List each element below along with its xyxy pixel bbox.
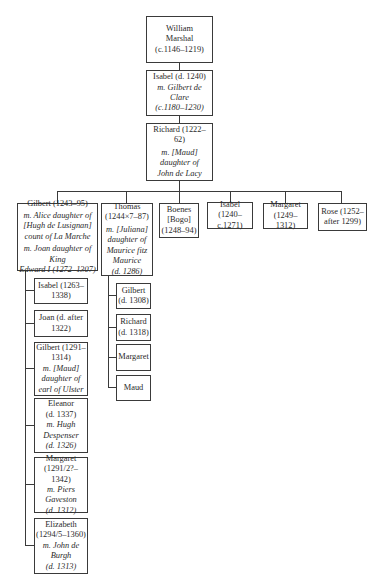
gilbert-children-spine	[25, 270, 26, 546]
spouse: (d. 1313)	[36, 562, 86, 572]
name: Gilbert (1291–	[36, 343, 86, 353]
person-gilbert-1291: Gilbert (1291– 1314) m. [Maud] daughter …	[34, 342, 88, 396]
spouse: Burgh	[36, 551, 86, 561]
branch	[25, 290, 34, 291]
person-elizabeth: Elizabeth (1294/5–1360) m. John de Burgh…	[34, 518, 88, 574]
name: Maud	[118, 383, 149, 393]
branch	[25, 545, 34, 546]
name: Margaret	[118, 352, 149, 362]
spouse: Clare	[148, 93, 211, 103]
person-isabel-1263: Isabel (1263– 1338)	[34, 278, 88, 304]
connector-root-gen2	[179, 62, 180, 70]
name: Isabel (1240–	[209, 200, 251, 221]
person-richard: Richard (1222–62) m. [Maud] daughter of …	[146, 123, 213, 181]
branch	[108, 387, 116, 388]
spouse: (d. 1326)	[36, 441, 86, 451]
spouse: (d. 1312)	[36, 506, 86, 516]
name: Thomas	[103, 202, 151, 212]
spouse-dates: (c.1180–1230)	[148, 103, 211, 113]
spouse: daughter of	[103, 235, 151, 245]
branch	[25, 368, 34, 369]
person-william-marshal: William Marshal (c.1146–1219)	[146, 16, 213, 63]
dates: (1294/5–1360)	[36, 530, 86, 540]
person-isabel-d1240: Isabel (d. 1240) m. Gilbert de Clare (c.…	[146, 70, 213, 116]
branch	[25, 425, 34, 426]
name: Margaret	[265, 200, 306, 210]
dates: (c.1146–1219)	[148, 45, 211, 55]
spouse: m. Alice daughter of	[19, 211, 96, 221]
spouse: m. [Juliana]	[103, 225, 151, 235]
name: Eleanor	[36, 399, 86, 409]
person-margaret-1249: Margaret (1249–1312)	[263, 203, 308, 229]
drop-rose	[341, 191, 342, 203]
name: William	[148, 24, 211, 34]
dates: 1314)	[36, 353, 86, 363]
person-richard-d1318: Richard (d. 1318)	[116, 314, 151, 341]
drop-boenes	[179, 191, 180, 203]
dates: (d. 1308)	[118, 296, 149, 306]
dates: after 1299)	[320, 217, 365, 227]
person-margaret-thomas: Margaret	[116, 344, 151, 371]
spouse: Despenser	[36, 431, 86, 441]
branch	[108, 327, 116, 328]
branch	[108, 357, 116, 358]
connector-gen3-children	[179, 180, 180, 191]
name: Margaret	[36, 454, 86, 464]
person-gilbert-1243: Gilbert (1243–95) m. Alice daughter of […	[17, 203, 98, 271]
name: Isabel (d. 1240)	[148, 72, 211, 82]
thomas-children-spine	[108, 275, 109, 387]
name: Boenes	[161, 205, 197, 215]
spouse: m. John de	[36, 541, 86, 551]
dates: (1291/2?–1342)	[36, 464, 86, 485]
dates: c.1271)	[209, 221, 251, 231]
dates: (1249–1312)	[265, 211, 306, 232]
person-eleanor: Eleanor (d. 1337) m. Hugh Despenser (d. …	[34, 398, 88, 453]
spouse: Gaveston	[36, 495, 86, 505]
spouse: m. Hugh	[36, 420, 86, 430]
person-rose: Rose (1252– after 1299)	[318, 203, 367, 231]
spouse: m. Piers	[36, 485, 86, 495]
branch	[108, 295, 116, 296]
branch	[25, 484, 34, 485]
person-margaret-1291: Margaret (1291/2?–1342) m. Piers Gavesto…	[34, 457, 88, 513]
person-gilbert-d1308: Gilbert (d. 1308)	[116, 283, 151, 309]
spouse: m. [Maud]	[148, 148, 211, 158]
name: Richard	[118, 317, 149, 327]
dates: (d. 1318)	[118, 328, 149, 338]
dates: (1248–94)	[161, 226, 197, 236]
connector-gen2-gen3	[179, 115, 180, 123]
name: Gilbert (1243–95)	[19, 199, 96, 209]
name: Rose (1252–	[320, 207, 365, 217]
spouse: Maurice fitz	[103, 246, 151, 256]
person-boenes: Boenes [Bogo] (1248–94)	[159, 203, 199, 238]
branch	[25, 323, 34, 324]
person-joan: Joan (d. after 1322)	[34, 310, 88, 337]
spouse: m. Joan daughter of King	[19, 244, 96, 265]
dates: 1338)	[36, 291, 86, 301]
spouse: count of La Marche	[19, 232, 96, 242]
children-horizontal-bar	[57, 191, 342, 192]
spouse: m. Gilbert de	[148, 83, 211, 93]
spouse: earl of Ulster	[36, 385, 86, 395]
person-isabel-1240: Isabel (1240– c.1271)	[207, 202, 253, 229]
name: Elizabeth	[36, 520, 86, 530]
name: [Bogo]	[161, 215, 197, 225]
spouse: daughter of	[148, 158, 211, 168]
spouse: Edward I (1272–1307)	[19, 265, 96, 275]
dates: 1322)	[36, 324, 86, 334]
name: Isabel (1263–	[36, 281, 86, 291]
name: Gilbert	[118, 286, 149, 296]
dates: (d. 1337)	[36, 410, 86, 420]
person-thomas: Thomas (1244×7–87) m. [Juliana] daughter…	[101, 203, 153, 276]
spouse: John de Lacy	[148, 169, 211, 179]
name: Joan (d. after	[36, 313, 86, 323]
spouse: m. [Maud]	[36, 364, 86, 374]
dates: (1244×7–87)	[103, 212, 151, 222]
name: Marshal	[148, 34, 211, 44]
spouse: daughter of	[36, 374, 86, 384]
name: Richard (1222–62)	[148, 125, 211, 146]
spouse: (d. 1286)	[103, 267, 151, 277]
spouse: [Hugh de Lusignan]	[19, 221, 96, 231]
person-maud: Maud	[116, 375, 151, 401]
spouse: Maurice	[103, 256, 151, 266]
